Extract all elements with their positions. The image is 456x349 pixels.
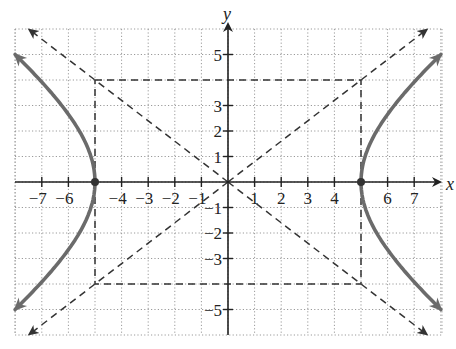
- x-tick-label: 4: [330, 189, 339, 208]
- y-tick-label: −1: [204, 199, 222, 218]
- y-tick-label: −5: [204, 301, 222, 320]
- x-tick-label: −3: [135, 189, 153, 208]
- hyperbola-right-branch-upper: [361, 55, 441, 183]
- x-tick-label: 1: [250, 189, 259, 208]
- hyperbola-right-branch-lower: [361, 182, 441, 310]
- y-axis-label: y: [221, 4, 231, 24]
- x-tick-label: 7: [410, 189, 419, 208]
- vertex-point: [357, 178, 365, 186]
- x-axis-label: x: [445, 174, 454, 194]
- x-tick-label: 6: [383, 189, 392, 208]
- x-tick-label: 3: [304, 189, 313, 208]
- y-tick-label: 2: [214, 122, 223, 141]
- vertex-point: [91, 178, 99, 186]
- y-tick-label: 1: [214, 148, 223, 167]
- x-tick-label: −4: [109, 189, 128, 208]
- y-tick-label: 5: [214, 46, 223, 65]
- axes: [15, 24, 440, 335]
- x-tick-label: −7: [29, 189, 48, 208]
- hyperbola-left-branch-upper: [15, 55, 95, 183]
- y-tick-label: −2: [204, 224, 222, 243]
- y-tick-label: 3: [214, 97, 223, 116]
- asymptote-negative-b: [29, 29, 229, 182]
- y-tick-label: −3: [204, 250, 222, 269]
- hyperbola-plot: −7−6−4−3−2−11234675321−1−2−3−5 x y: [0, 0, 456, 349]
- x-tick-label: −6: [55, 189, 73, 208]
- x-tick-label: 2: [277, 189, 286, 208]
- asymptote-positive-a: [228, 29, 428, 182]
- x-tick-label: −2: [162, 189, 180, 208]
